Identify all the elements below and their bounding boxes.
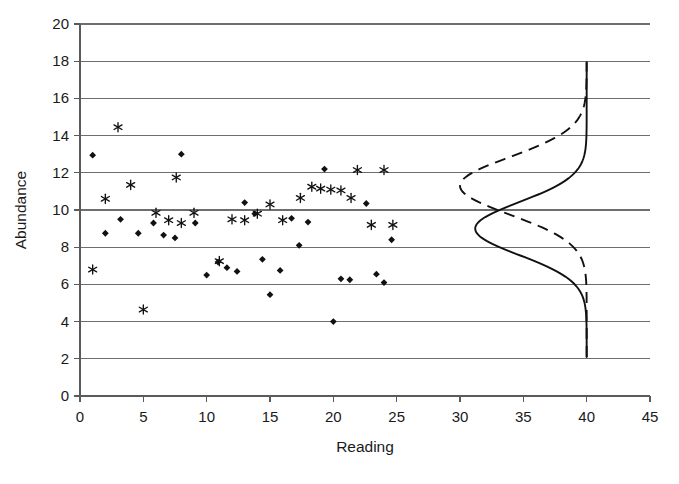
y-tick-label: 2 <box>61 350 69 367</box>
x-tick-label: 45 <box>642 408 659 425</box>
y-tick-label: 0 <box>61 387 69 404</box>
y-axis-title: Abundance <box>12 171 29 249</box>
y-tick-label: 6 <box>61 275 69 292</box>
y-tick-label: 14 <box>52 127 69 144</box>
y-tick-label: 20 <box>52 15 69 32</box>
x-tick-label: 5 <box>139 408 147 425</box>
scatter-chart: 02468101214161820 051015202530354045 Abu… <box>0 0 679 484</box>
y-tick-label: 4 <box>61 313 69 330</box>
y-tick-label: 18 <box>52 52 69 69</box>
x-tick-label: 35 <box>515 408 532 425</box>
y-tick-label: 10 <box>52 201 69 218</box>
x-tick-label: 20 <box>325 408 342 425</box>
chart-canvas: 02468101214161820 051015202530354045 Abu… <box>0 0 679 484</box>
x-axis-title: Reading <box>336 438 394 455</box>
y-tick-label: 12 <box>52 164 69 181</box>
y-tick-label: 16 <box>52 89 69 106</box>
x-tick-label: 0 <box>76 408 84 425</box>
y-tick-label: 8 <box>61 238 69 255</box>
x-tick-label: 25 <box>388 408 405 425</box>
x-tick-label: 40 <box>578 408 595 425</box>
x-tick-label: 30 <box>452 408 469 425</box>
x-tick-label: 15 <box>262 408 279 425</box>
x-tick-label: 10 <box>198 408 215 425</box>
